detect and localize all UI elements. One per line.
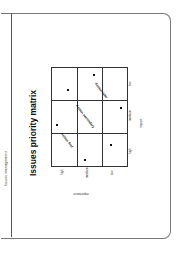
grid-line xyxy=(52,100,127,101)
issue-point xyxy=(67,89,69,91)
importance-axis-label: importance xyxy=(73,192,89,196)
issue-point xyxy=(84,159,86,161)
section-label: Issues management xyxy=(4,151,8,186)
impact-tick-low: low xyxy=(128,81,132,86)
importance-tick-high: high xyxy=(60,169,64,175)
issue-point xyxy=(120,107,122,109)
impact-tick-high: high xyxy=(128,148,132,154)
issue-point xyxy=(110,144,112,146)
page-title: Issues priority matrix xyxy=(28,90,38,176)
grid-line xyxy=(77,68,78,166)
zone-label: Action first xyxy=(60,132,74,149)
importance-tick-medium: medium xyxy=(85,167,89,178)
importance-tick-low: low xyxy=(110,170,114,175)
impact-axis-label: impact xyxy=(139,119,143,128)
issue-point xyxy=(56,124,58,126)
issue-point xyxy=(93,74,95,76)
grid-line xyxy=(102,68,103,166)
header-divider xyxy=(11,13,12,237)
priority-matrix: Action later Action secondary Action fir… xyxy=(51,67,128,167)
impact-tick-medium: medium xyxy=(128,110,132,121)
